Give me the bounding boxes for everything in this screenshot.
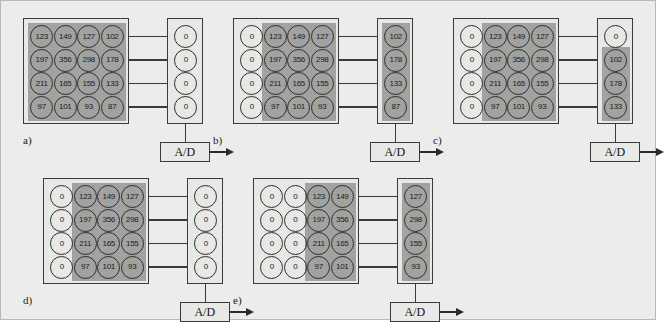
adc-output-arrow-head-e [456, 308, 464, 316]
pixel-cell-e-r2-c0: 0 [260, 232, 283, 255]
adc-converter-e: A/D [390, 302, 440, 322]
pixel-cell-e-r0-c1: 0 [284, 185, 307, 208]
pixel-cell-e-r1-c0: 0 [260, 209, 283, 232]
transfer-line-e-0 [359, 196, 397, 197]
pixel-cell-e-r3-c2: 97 [307, 256, 330, 279]
pixel-array-e: 0012314900197356002111650097101 [253, 178, 359, 284]
pixel-cell-e-r2-c3: 165 [331, 232, 354, 255]
transfer-line-e-2 [359, 243, 397, 244]
pixel-cell-e-r1-c1: 0 [284, 209, 307, 232]
pixel-cell-e-r0-c0: 0 [260, 185, 283, 208]
register-cell-e-1: 298 [404, 209, 427, 232]
readout-register-e: 12729815593 [397, 178, 433, 284]
pixel-cell-e-r3-c0: 0 [260, 256, 283, 279]
panel-e: 0012314900197356002111650097101127298155… [1, 1, 657, 321]
pixel-cell-e-r3-c1: 0 [284, 256, 307, 279]
transfer-line-e-1 [359, 219, 397, 220]
pixel-cell-e-r2-c1: 0 [284, 232, 307, 255]
pixel-cell-e-r1-c3: 356 [331, 209, 354, 232]
panel-caption-e: e) [233, 294, 242, 306]
pixel-cell-e-r0-c3: 149 [331, 185, 354, 208]
register-to-adc-line-e [415, 284, 416, 302]
transfer-line-e-3 [359, 266, 397, 267]
pixel-cell-e-r3-c3: 101 [331, 256, 354, 279]
pixel-cell-e-r1-c2: 197 [307, 209, 330, 232]
register-cell-e-3: 93 [404, 256, 427, 279]
